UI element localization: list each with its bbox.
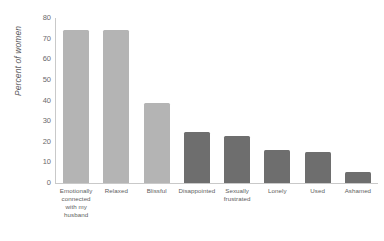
bar[interactable]: [144, 103, 170, 183]
bar-slot: [144, 18, 170, 183]
bar-slot: [345, 18, 371, 183]
y-axis-tick-60: 60: [29, 55, 51, 63]
x-axis-label-line: frustrated: [211, 195, 263, 203]
y-axis-tick-10: 10: [29, 158, 51, 166]
bar-slot: [103, 18, 129, 183]
x-axis-tick-labels: Emotionallyconnectedwith myhusbandRelaxe…: [56, 187, 378, 241]
bar-slot: [305, 18, 331, 183]
x-axis-line: [55, 183, 378, 184]
bar-chart: Percent of women 80706050403020100 Emoti…: [0, 0, 384, 241]
x-axis-label-line: connected: [50, 195, 102, 203]
y-axis-tick-80: 80: [29, 14, 51, 22]
bar-series: [56, 18, 378, 183]
x-axis-label-line: Ashamed: [332, 187, 384, 195]
bar-slot: [264, 18, 290, 183]
bar[interactable]: [345, 172, 371, 183]
y-axis-title: Percent of women: [13, 0, 23, 131]
bar[interactable]: [184, 132, 210, 183]
bar[interactable]: [264, 150, 290, 183]
plot-area: [55, 18, 378, 183]
x-axis-tick-label: Ashamed: [332, 187, 384, 195]
x-axis-label-line: with my: [50, 203, 102, 211]
y-axis-tick-20: 20: [29, 138, 51, 146]
y-axis-tick-40: 40: [29, 97, 51, 105]
y-axis-tick-30: 30: [29, 117, 51, 125]
bar-slot: [63, 18, 89, 183]
bar[interactable]: [224, 136, 250, 183]
bar[interactable]: [103, 30, 129, 183]
bar-slot: [184, 18, 210, 183]
bar[interactable]: [305, 152, 331, 183]
y-axis-tick-0: 0: [29, 179, 51, 187]
y-axis-tick-50: 50: [29, 76, 51, 84]
x-axis-label-line: husband: [50, 211, 102, 219]
bar-slot: [224, 18, 250, 183]
y-axis-tick-70: 70: [29, 35, 51, 43]
bar[interactable]: [63, 30, 89, 183]
